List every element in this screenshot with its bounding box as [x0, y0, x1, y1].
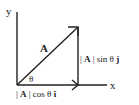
- angle-theta-label: θ: [29, 74, 33, 84]
- vector-decomposition-diagram: y x A θ | A | sin θ j | A | cos θ î: [0, 0, 139, 105]
- horizontal-middle: | cos θ: [27, 89, 54, 99]
- vertical-unit: j: [115, 54, 119, 64]
- y-axis-label: y: [6, 5, 12, 17]
- vertical-middle: | sin θ: [91, 54, 117, 64]
- vertical-component-label: | A | sin θ j: [80, 54, 119, 64]
- x-axis-label: x: [110, 79, 116, 91]
- vector-a-label: A: [40, 42, 48, 54]
- vector-a: [17, 28, 77, 85]
- horizontal-unit: î: [53, 89, 57, 99]
- horizontal-component-label: | A | cos θ î: [16, 89, 57, 99]
